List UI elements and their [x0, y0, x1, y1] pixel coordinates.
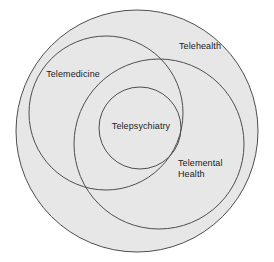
- venn-diagram-canvas: [0, 0, 274, 262]
- venn-diagram: Telehealth Telemedicine Telepsychiatry T…: [0, 0, 274, 262]
- circle-telehealth: [16, 10, 258, 252]
